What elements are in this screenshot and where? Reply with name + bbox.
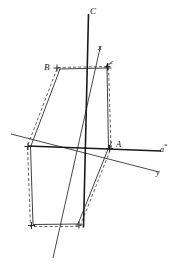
label-y-axis: y xyxy=(156,169,160,177)
figure-root: C x B C A a* y xyxy=(0,0,178,265)
label-c-axis: C xyxy=(90,7,96,16)
c-axis-line xyxy=(84,14,89,228)
unit-cell-diagram xyxy=(0,0,178,265)
label-c-vertex: C xyxy=(106,62,112,71)
axes-group xyxy=(11,14,161,258)
label-x-axis: x xyxy=(98,44,102,52)
label-b-vertex: B xyxy=(44,63,50,72)
arrow-to-a-vertex-icon xyxy=(109,142,112,149)
tick-bottom-left-icon xyxy=(28,222,35,229)
label-a-star: a* xyxy=(160,143,168,154)
label-a-vertex: A xyxy=(116,140,121,149)
label-a-star-superscript: * xyxy=(164,142,168,150)
tick-bottom-right-icon xyxy=(76,222,83,229)
a-star-axis-line xyxy=(28,146,161,151)
